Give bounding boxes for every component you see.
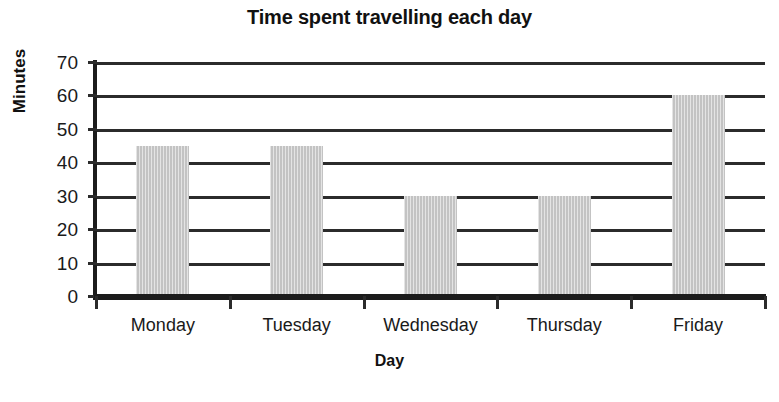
gridline-60 [96,95,765,98]
plot-area [96,62,765,296]
gridline-40 [96,162,765,165]
y-tick-label-10: 10 [22,254,78,273]
x-tick-4 [630,296,633,309]
x-axis-label: Day [0,352,779,370]
x-tick-2 [363,296,366,309]
x-tick-5 [764,296,767,309]
y-tick-70 [88,61,97,64]
bar-tuesday [270,146,323,296]
y-tick-20 [88,228,97,231]
x-tick-1 [229,296,232,309]
chart-title: Time spent travelling each day [0,6,779,29]
x-tick-3 [496,296,499,309]
y-tick-60 [88,94,97,97]
x-tick-label-friday: Friday [618,316,778,336]
y-tick-30 [88,195,97,198]
y-tick-label-50: 50 [22,120,78,139]
bar-wednesday [404,196,457,296]
y-tick-label-40: 40 [22,153,78,172]
y-tick-label-70: 70 [22,53,78,72]
y-tick-label-0: 0 [22,287,78,306]
bar-monday [136,146,189,296]
bar-friday [672,95,725,296]
y-tick-label-20: 20 [22,220,78,239]
y-tick-10 [88,262,97,265]
bar-thursday [538,196,591,296]
gridline-70 [96,62,765,65]
gridline-50 [96,129,765,132]
x-axis-line [94,294,766,298]
x-tick-0 [95,296,98,309]
y-tick-label-30: 30 [22,187,78,206]
y-tick-50 [88,128,97,131]
y-tick-label-60: 60 [22,86,78,105]
bar-chart: Time spent travelling each day Minutes 7… [0,0,779,402]
y-tick-40 [88,161,97,164]
